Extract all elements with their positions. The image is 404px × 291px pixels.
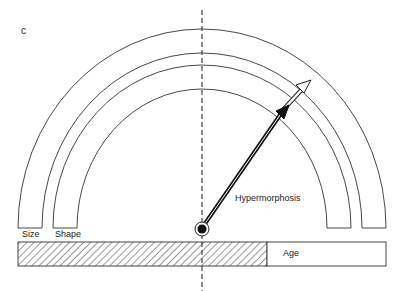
hypermorphosis-diagram xyxy=(0,0,404,291)
shape-label: Shape xyxy=(55,229,81,239)
solid-arrow-icon xyxy=(202,105,289,228)
size-label: Size xyxy=(22,229,40,239)
age-bar-hatched xyxy=(18,242,267,266)
panel-label: c xyxy=(21,25,26,36)
age-label: Age xyxy=(283,248,299,258)
hypermorphosis-label: Hypermorphosis xyxy=(235,193,301,203)
